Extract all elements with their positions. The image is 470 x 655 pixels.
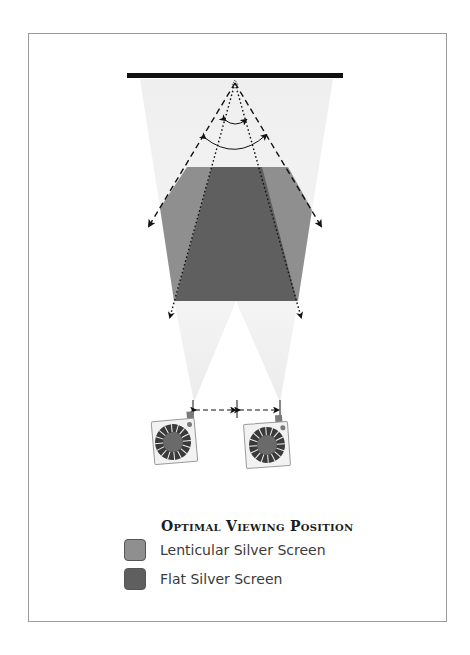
flat-swatch (124, 568, 146, 590)
projector-left (151, 411, 198, 465)
projector-beams (174, 301, 298, 402)
legend-label-lenticular: Lenticular Silver Screen (160, 542, 326, 558)
legend-item-lenticular: Lenticular Silver Screen (124, 539, 326, 561)
projector-spacing-dimension (193, 400, 280, 418)
legend-label-flat: Flat Silver Screen (160, 571, 282, 587)
legend-title: Optimal Viewing Position (161, 518, 354, 534)
lenticular-swatch (124, 539, 146, 561)
projector-right (243, 415, 290, 469)
projection-screen (127, 73, 343, 78)
legend-item-flat: Flat Silver Screen (124, 568, 282, 590)
